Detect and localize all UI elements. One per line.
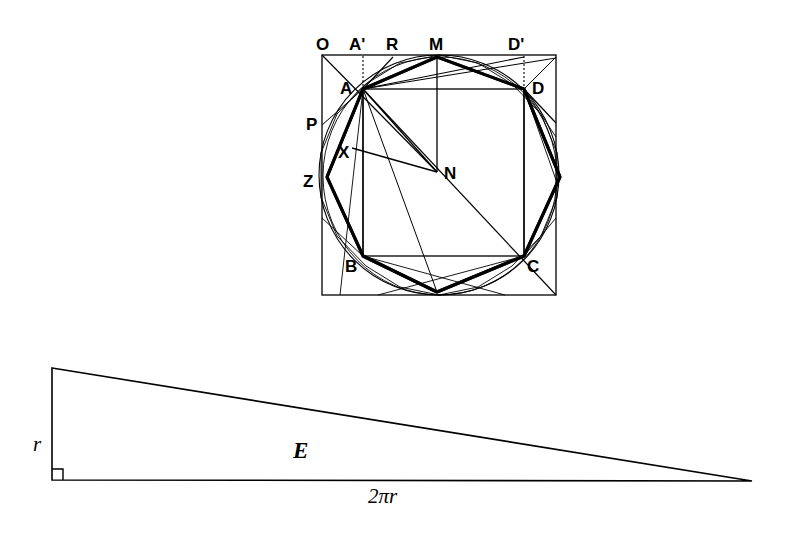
label-O: O (316, 36, 329, 53)
ray-A-to-N (363, 89, 437, 172)
octagon-edge-bottom-C (437, 256, 524, 292)
label-R: R (386, 36, 398, 53)
label-area-E: E (293, 439, 308, 462)
ray-A-to-Z (327, 89, 363, 177)
label-B: B (345, 258, 357, 275)
label-N: N (444, 165, 456, 182)
label-A-prime: A' (349, 36, 365, 53)
segment-X-to-N (352, 148, 437, 172)
ray-D-to-M (437, 57, 524, 89)
ray-D-to-right-octagon-vertex (524, 89, 560, 177)
ray-D-to-lower-right-thin (524, 89, 556, 180)
label-X: X (338, 144, 349, 161)
label-Z: Z (303, 173, 313, 190)
label-M: M (429, 36, 443, 53)
label-C: C (527, 258, 539, 275)
figure-svg (0, 0, 796, 537)
ray-A-to-top-right-corner (363, 58, 556, 89)
chord-right-lower (524, 177, 560, 256)
label-radius-r: r (33, 434, 41, 455)
ray-A-to-Dprime (363, 57, 524, 89)
bottom-figure-group (52, 368, 752, 481)
label-D-prime: D' (508, 36, 524, 53)
label-D: D (532, 80, 544, 97)
label-P: P (306, 116, 317, 133)
right-angle-marker-icon (52, 469, 63, 480)
label-circumference-2pir: 2πr (368, 486, 397, 507)
area-triangle (52, 368, 752, 481)
figure-root: O A' R M D' A D P X Z N B C r E 2πr (0, 0, 796, 537)
label-A: A (340, 80, 352, 97)
chord-left-thin-lower (322, 218, 363, 256)
